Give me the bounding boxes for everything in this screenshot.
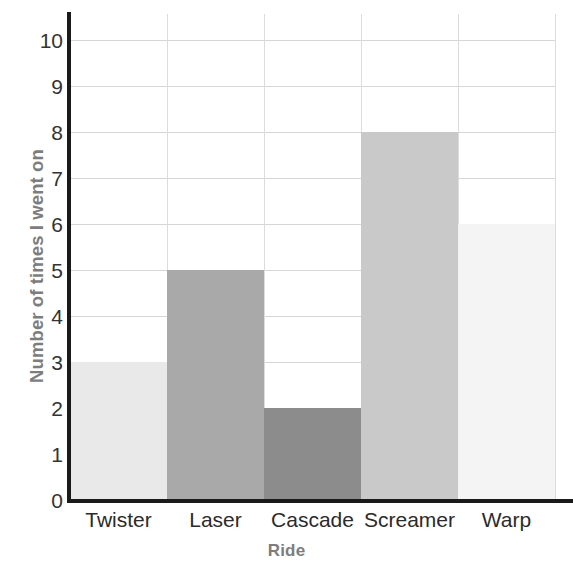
y-tick-label: 7 <box>23 168 63 189</box>
y-tick-label: 1 <box>23 444 63 465</box>
y-axis-line <box>67 12 71 502</box>
x-tick-label: Laser <box>167 505 264 535</box>
x-tick-label: Warp <box>458 505 555 535</box>
x-tick-label: Screamer <box>361 505 458 535</box>
x-tick-label: Twister <box>70 505 167 535</box>
bar-twister <box>70 362 167 500</box>
bar-laser <box>167 270 264 500</box>
y-tick-label: 2 <box>23 398 63 419</box>
y-axis-tick-labels: 012345678910 <box>15 0 63 572</box>
y-tick-label: 6 <box>23 214 63 235</box>
bars-layer <box>70 14 555 500</box>
x-tick-label: Cascade <box>264 505 361 535</box>
bar-cascade <box>264 408 361 500</box>
y-tick-label: 8 <box>23 122 63 143</box>
bar-warp <box>458 224 555 500</box>
bar-screamer <box>361 132 458 500</box>
y-tick-label: 10 <box>23 30 63 51</box>
bar-chart: Number of times I went on 012345678910 T… <box>0 0 573 572</box>
gridline-vertical <box>555 14 556 500</box>
x-axis-title: Ride <box>0 541 573 561</box>
x-axis-line <box>67 499 573 503</box>
plot-area <box>70 14 555 500</box>
x-axis-tick-labels: TwisterLaserCascadeScreamerWarp <box>70 505 555 539</box>
y-tick-label: 9 <box>23 76 63 97</box>
y-tick-label: 4 <box>23 306 63 327</box>
y-tick-label: 3 <box>23 352 63 373</box>
y-tick-label: 5 <box>23 260 63 281</box>
y-tick-label: 0 <box>23 490 63 511</box>
